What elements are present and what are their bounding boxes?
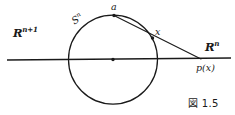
hyperplane-axis-line [7,58,231,60]
north-pole-label: a [111,2,117,12]
figure-container: Rn+1 Sn a x Rn p(x) 図 1.5 [0,0,235,115]
figure-caption: 図 1.5 [188,95,219,110]
projected-point-label: p(x) [196,63,215,73]
sphere-point-dot [151,36,154,39]
sphere-point-label: x [155,27,160,37]
hyperplane-label: Rn [205,42,219,54]
sphere-center-dot [111,58,114,61]
ambient-space-label: Rn+1 [13,28,38,40]
north-pole-dot [112,14,115,17]
